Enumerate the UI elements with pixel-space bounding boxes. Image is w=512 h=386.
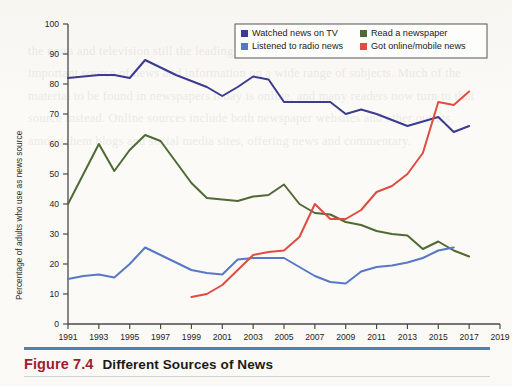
y-tick-label-60: 60 (49, 139, 59, 149)
x-tick-label-2009: 2009 (336, 332, 355, 342)
x-tick-label-2019: 2019 (490, 332, 509, 342)
x-tick-label-2011: 2011 (367, 332, 386, 342)
x-tick-label-2017: 2017 (460, 332, 479, 342)
chart-axes (68, 24, 500, 324)
x-tick-label-1997: 1997 (151, 332, 170, 342)
line-chart-figure: 0102030405060708090100 19911993199519971… (0, 0, 512, 386)
chart-svg: 0102030405060708090100 19911993199519971… (0, 0, 512, 386)
legend-swatch (360, 43, 367, 50)
x-tick-label-1993: 1993 (89, 332, 108, 342)
x-tick-label-2001: 2001 (213, 332, 232, 342)
chart-series-group (68, 60, 469, 297)
legend-label: Got online/mobile news (371, 41, 466, 51)
x-tick-label-2005: 2005 (274, 332, 293, 342)
legend-label: Read a newspaper (371, 28, 447, 38)
figure-page: the news and television still the leadin… (0, 0, 512, 386)
series-line-read-a-newspaper (68, 135, 469, 257)
legend-swatch (360, 30, 367, 37)
y-tick-label-0: 0 (54, 319, 59, 329)
y-tick-label-100: 100 (45, 19, 60, 29)
caption-bottom-rule (24, 376, 490, 377)
x-tick-label-1995: 1995 (120, 332, 139, 342)
legend-label: Watched news on TV (252, 28, 339, 38)
y-tick-label-90: 90 (49, 49, 59, 59)
x-tick-label-1999: 1999 (182, 332, 201, 342)
x-tick-label-2013: 2013 (398, 332, 417, 342)
legend-swatch (241, 43, 248, 50)
y-tick-label-20: 20 (49, 259, 59, 269)
figure-title: Different Sources of News (103, 357, 274, 372)
x-axis-ticks: 1991199319951997199920012003200520072009… (58, 324, 509, 342)
chart-legend: Watched news on TVRead a newspaperListen… (235, 24, 487, 58)
caption-top-rule (24, 347, 490, 350)
series-line-watched-news-on-tv (68, 60, 469, 132)
y-tick-label-10: 10 (49, 289, 59, 299)
series-line-got-online-mobile-news (191, 92, 469, 298)
y-tick-label-80: 80 (49, 79, 59, 89)
x-tick-label-2003: 2003 (244, 332, 263, 342)
y-tick-label-50: 50 (49, 169, 59, 179)
x-tick-label-1991: 1991 (58, 332, 77, 342)
y-axis-ticks: 0102030405060708090100 (45, 19, 68, 329)
y-tick-label-40: 40 (49, 199, 59, 209)
y-tick-label-70: 70 (49, 109, 59, 119)
x-tick-label-2007: 2007 (305, 332, 324, 342)
figure-caption: Figure 7.4 Different Sources of News (24, 351, 494, 377)
figure-number: Figure 7.4 (24, 356, 94, 372)
y-axis-title: Percentage of adults who use as news sou… (14, 130, 24, 300)
y-tick-label-30: 30 (49, 229, 59, 239)
legend-swatch (241, 30, 248, 37)
x-tick-label-2015: 2015 (429, 332, 448, 342)
legend-label: Listened to radio news (252, 41, 343, 51)
